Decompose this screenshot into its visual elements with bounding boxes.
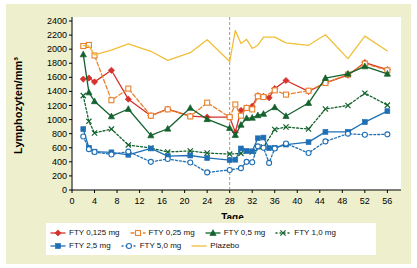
legend-item[interactable]: FTY 2,5 mg (50, 241, 111, 251)
svg-text:600: 600 (52, 143, 67, 153)
svg-text:1600: 1600 (47, 72, 67, 82)
svg-text:1200: 1200 (47, 101, 67, 111)
svg-text:16: 16 (157, 196, 167, 206)
svg-text:44: 44 (315, 196, 325, 206)
svg-text:28: 28 (225, 196, 235, 206)
legend-marker-icon (121, 241, 137, 251)
svg-text:400: 400 (52, 157, 67, 167)
legend-item[interactable]: FTY 0,5 mg (205, 228, 266, 238)
legend-marker-icon (50, 241, 66, 251)
svg-text:0: 0 (69, 196, 74, 206)
svg-text:56: 56 (382, 196, 392, 206)
svg-text:4: 4 (92, 196, 97, 206)
svg-text:8: 8 (115, 196, 120, 206)
svg-text:24: 24 (202, 196, 212, 206)
svg-text:52: 52 (360, 196, 370, 206)
legend-item[interactable]: FTY 0,25 mg (130, 228, 195, 238)
legend-item-label: FTY 2,5 mg (69, 241, 111, 250)
x-axis-label: Tage (221, 212, 244, 219)
chart-legend: FTY 0,125 mgFTY 0,25 mgFTY 0,5 mgFTY 1,0… (46, 223, 376, 255)
legend-row: FTY 2,5 mgFTY 5,0 mgPlazebo (50, 239, 372, 252)
legend-item[interactable]: FTY 1,0 mg (275, 228, 336, 238)
legend-item[interactable]: FTY 5,0 mg (121, 241, 182, 251)
legend-item-label: Plazebo (210, 241, 239, 250)
legend-item-label: FTY 0,5 mg (224, 228, 266, 237)
svg-text:2200: 2200 (47, 30, 67, 40)
figure-panel: 0200400600800100012001400160018002000220… (6, 4, 411, 264)
svg-text:12: 12 (135, 196, 145, 206)
legend-item[interactable]: Plazebo (191, 241, 239, 251)
svg-text:32: 32 (247, 196, 257, 206)
svg-text:2000: 2000 (47, 44, 67, 54)
legend-item-label: FTY 1,0 mg (294, 228, 336, 237)
legend-item-label: FTY 5,0 mg (140, 241, 182, 250)
legend-item[interactable]: FTY 0,125 mg (50, 228, 120, 238)
legend-marker-icon (275, 228, 291, 238)
svg-text:200: 200 (52, 171, 67, 181)
svg-text:1800: 1800 (47, 58, 67, 68)
svg-text:36: 36 (270, 196, 280, 206)
legend-marker-icon (191, 241, 207, 251)
svg-text:20: 20 (180, 196, 190, 206)
svg-text:1400: 1400 (47, 86, 67, 96)
legend-item-label: FTY 0,125 mg (69, 228, 120, 237)
svg-text:1000: 1000 (47, 115, 67, 125)
screenshot-frame: 0200400600800100012001400160018002000220… (0, 0, 417, 268)
svg-text:48: 48 (337, 196, 347, 206)
legend-row: FTY 0,125 mgFTY 0,25 mgFTY 0,5 mgFTY 1,0… (50, 226, 372, 239)
line-chart: 0200400600800100012001400160018002000220… (6, 4, 411, 219)
svg-text:2400: 2400 (47, 16, 67, 26)
legend-marker-icon (50, 228, 66, 238)
svg-text:40: 40 (292, 196, 302, 206)
legend-marker-icon (205, 228, 221, 238)
chart-canvas: 0200400600800100012001400160018002000220… (6, 4, 411, 219)
svg-text:0: 0 (62, 185, 67, 195)
legend-marker-icon (130, 228, 146, 238)
svg-text:800: 800 (52, 129, 67, 139)
legend-item-label: FTY 0,25 mg (149, 228, 195, 237)
y-axis-label: Lymphozyten/mm³ (12, 57, 24, 154)
